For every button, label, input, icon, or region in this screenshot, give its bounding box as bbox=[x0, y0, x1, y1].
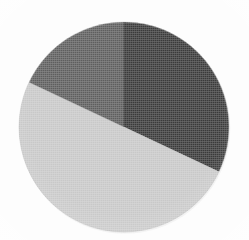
pie-chart-figure bbox=[0, 0, 249, 240]
pie-chart-svg bbox=[0, 0, 249, 240]
